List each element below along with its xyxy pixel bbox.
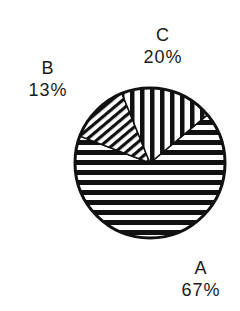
slice-b-value: 13% xyxy=(22,79,74,101)
slice-label-b: B 13% xyxy=(22,57,74,101)
slice-c-value: 20% xyxy=(140,46,186,68)
slice-c-name: C xyxy=(140,24,186,46)
slice-a-value: 67% xyxy=(175,279,227,301)
slice-label-a: A 67% xyxy=(175,257,227,301)
slice-b-name: B xyxy=(22,57,74,79)
slice-label-c: C 20% xyxy=(140,24,186,68)
slice-a-name: A xyxy=(175,257,227,279)
